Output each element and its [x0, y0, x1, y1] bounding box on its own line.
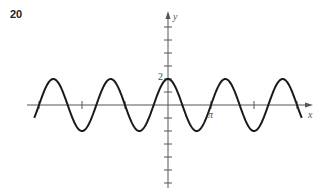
y-axis-label: y [172, 11, 178, 22]
x-axis-label: x [307, 109, 313, 120]
y-axis-arrow [166, 11, 171, 19]
y-tick-label: 2 [158, 71, 163, 82]
graph: π2xy [0, 0, 328, 193]
x-axis-arrow [305, 103, 313, 108]
x-tick-label: π [208, 109, 214, 120]
